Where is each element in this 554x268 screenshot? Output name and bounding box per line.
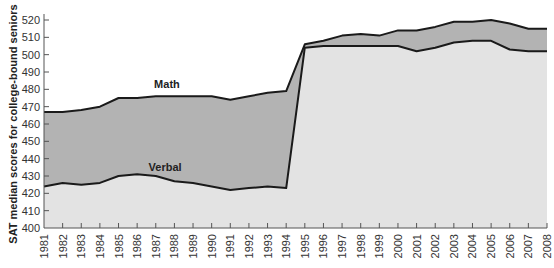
sat-scores-chart: 400410420430440450460470480490500510520 … — [0, 0, 554, 268]
x-tick-label: 1986 — [131, 234, 143, 258]
x-tick-label: 1993 — [262, 234, 274, 258]
y-tick-label: 500 — [22, 49, 40, 61]
x-tick-label: 1991 — [224, 234, 236, 258]
y-tick-label: 400 — [22, 222, 40, 234]
series-label-math: Math — [154, 78, 180, 90]
y-tick-label: 490 — [22, 66, 40, 78]
y-tick-label: 460 — [22, 118, 40, 130]
x-tick-label: 1988 — [168, 234, 180, 258]
x-tick-label: 1992 — [243, 234, 255, 258]
y-tick-label: 520 — [22, 14, 40, 26]
x-tick-label: 1984 — [94, 234, 106, 258]
y-tick-label: 510 — [22, 31, 40, 43]
series-label-verbal: Verbal — [149, 161, 182, 173]
x-tick-label: 1987 — [150, 234, 162, 258]
x-tick-label: 1999 — [373, 234, 385, 258]
x-tick-label: 2004 — [466, 234, 478, 258]
y-tick-label: 470 — [22, 101, 40, 113]
x-tick-label: 2008 — [541, 234, 553, 258]
y-tick-label: 450 — [22, 135, 40, 147]
y-tick-label: 420 — [22, 187, 40, 199]
x-tick-label: 2000 — [392, 234, 404, 258]
x-tick-label: 1998 — [355, 234, 367, 258]
x-tick-label: 2003 — [448, 234, 460, 258]
y-tick-label: 410 — [22, 205, 40, 217]
x-tick-label: 1990 — [206, 234, 218, 258]
y-tick-label: 440 — [22, 153, 40, 165]
x-tick-label: 2006 — [504, 234, 516, 258]
area-layer — [44, 20, 547, 228]
x-tick-label: 1989 — [187, 234, 199, 258]
x-tick-label: 1982 — [57, 234, 69, 258]
x-tick-label: 1985 — [113, 234, 125, 258]
x-tick-label: 1983 — [75, 234, 87, 258]
y-tick-label: 430 — [22, 170, 40, 182]
x-tick-label: 1997 — [336, 234, 348, 258]
x-tick-label: 2001 — [411, 234, 423, 258]
x-tick-label: 1995 — [299, 234, 311, 258]
x-tick-label: 1996 — [317, 234, 329, 258]
x-tick-label: 2002 — [429, 234, 441, 258]
x-tick-label: 1994 — [280, 234, 292, 258]
y-tick-label: 480 — [22, 83, 40, 95]
y-axis-title: SAT median scores for college-bound seni… — [7, 4, 19, 243]
x-tick-label: 2007 — [522, 234, 534, 258]
x-tick-label: 1981 — [38, 234, 50, 258]
x-tick-label: 2005 — [485, 234, 497, 258]
